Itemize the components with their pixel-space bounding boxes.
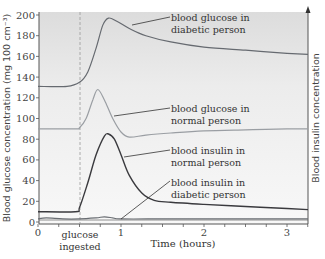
label-diabetic-glucose-1: blood glucose in — [171, 12, 250, 23]
label-normal-glucose-2: normal person — [171, 115, 241, 126]
y-tick-label: 60 — [22, 154, 35, 165]
label-diabetic-glucose-2: diabetic person — [171, 24, 246, 35]
y-tick-label: 0 — [29, 217, 35, 228]
line-chart: 020406080100120140160180200 0123 blood g… — [0, 0, 325, 259]
x-tick-label: 0 — [35, 227, 41, 238]
arrow-up-icon — [306, 6, 311, 13]
label-normal-glucose-1: blood glucose in — [171, 103, 250, 114]
y-tick-label: 140 — [16, 72, 35, 83]
y-axis-title: Blood glucose concentration (mg 100 cm⁻³… — [1, 14, 12, 222]
y-tick-label: 80 — [22, 134, 35, 145]
glucose-ingested-label-2: ingested — [59, 241, 100, 252]
y-tick-label: 120 — [16, 92, 35, 103]
y-tick-label: 160 — [16, 51, 35, 62]
y-tick-label: 100 — [16, 113, 35, 124]
x-tick-label: 1 — [118, 227, 124, 238]
x-tick-label: 3 — [284, 227, 290, 238]
label-diabetic-insulin-1: blood insulin in — [171, 177, 245, 188]
label-normal-insulin-2: normal person — [171, 157, 241, 168]
y-axis-title-right: Blood insulin concentration — [310, 53, 321, 183]
x-tick-label: 2 — [201, 227, 207, 238]
glucose-ingested-label-1: glucose — [62, 229, 99, 240]
x-axis-title: Time (hours) — [150, 238, 215, 249]
y-axis: 020406080100120140160180200 — [16, 10, 39, 228]
label-normal-insulin-1: blood insulin in — [171, 145, 245, 156]
y-tick-label: 200 — [16, 10, 35, 21]
label-diabetic-insulin-2: diabetic person — [171, 189, 246, 200]
y-tick-label: 20 — [22, 196, 35, 207]
y-tick-label: 40 — [22, 175, 35, 186]
y-tick-label: 180 — [16, 30, 35, 41]
